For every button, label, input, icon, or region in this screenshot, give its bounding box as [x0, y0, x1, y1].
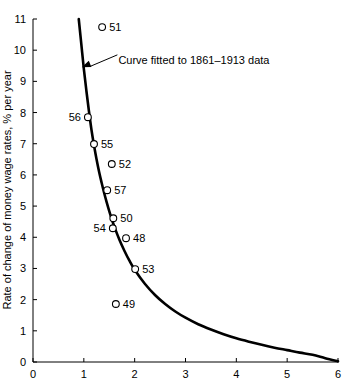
- data-point-marker: [110, 215, 117, 222]
- x-tick-label: 6: [335, 368, 341, 380]
- data-point-label: 53: [142, 263, 154, 275]
- x-tick-label: 3: [182, 368, 188, 380]
- phillips-curve-chart: 0123456 01234567891011 Rate of change of…: [0, 0, 344, 386]
- data-point-marker: [91, 141, 98, 148]
- data-point-marker: [109, 225, 116, 232]
- y-tick-label: 6: [20, 169, 26, 181]
- data-point-label: 50: [120, 212, 132, 224]
- data-point-label: 51: [109, 21, 121, 33]
- data-point-label: 48: [133, 232, 145, 244]
- y-tick-label: 0: [20, 356, 26, 368]
- data-point-label: 49: [123, 298, 135, 310]
- data-point-label: 54: [94, 222, 106, 234]
- x-tick-label: 4: [233, 368, 239, 380]
- y-tick-label: 10: [14, 44, 26, 56]
- y-tick-label: 5: [20, 200, 26, 212]
- data-point-marker: [85, 114, 92, 121]
- x-tick-label: 0: [30, 368, 36, 380]
- annotation-text: Curve fitted to 1861–1913 data: [118, 54, 270, 66]
- data-point-marker: [132, 266, 139, 273]
- y-tick-label: 7: [20, 138, 26, 150]
- y-tick-label: 9: [20, 75, 26, 87]
- y-tick-label: 4: [20, 231, 26, 243]
- data-point-marker: [123, 235, 130, 242]
- data-point-label: 57: [114, 184, 126, 196]
- y-tick-label: 1: [20, 325, 26, 337]
- y-tick-label: 3: [20, 262, 26, 274]
- y-tick-label: 8: [20, 107, 26, 119]
- data-point-label: 56: [69, 111, 81, 123]
- data-point-label: 52: [119, 158, 131, 170]
- x-tick-label: 1: [81, 368, 87, 380]
- data-point-marker: [108, 161, 115, 168]
- y-tick-label: 2: [20, 294, 26, 306]
- chart-canvas: 0123456 01234567891011 Rate of change of…: [0, 0, 344, 386]
- data-point-marker: [112, 301, 119, 308]
- y-axis-title: Rate of change of money wage rates, % pe…: [1, 70, 13, 309]
- data-point-label: 55: [101, 138, 113, 150]
- data-point-marker: [104, 187, 111, 194]
- y-tick-label: 11: [15, 13, 26, 25]
- x-tick-label: 2: [132, 368, 138, 380]
- x-tick-label: 5: [284, 368, 290, 380]
- data-point-marker: [99, 24, 106, 31]
